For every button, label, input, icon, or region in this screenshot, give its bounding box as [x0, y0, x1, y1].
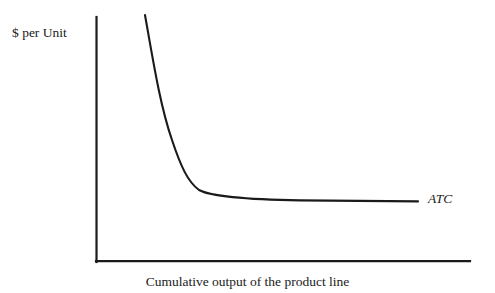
- y-axis-label: $ per Unit: [12, 26, 67, 40]
- atc-curve-label: ATC: [428, 192, 452, 206]
- atc-curve: [145, 15, 418, 201]
- x-axis-label: Cumulative output of the product line: [0, 275, 495, 289]
- plot-area: [0, 0, 495, 293]
- figure-container: $ per Unit Cumulative output of the prod…: [0, 0, 495, 293]
